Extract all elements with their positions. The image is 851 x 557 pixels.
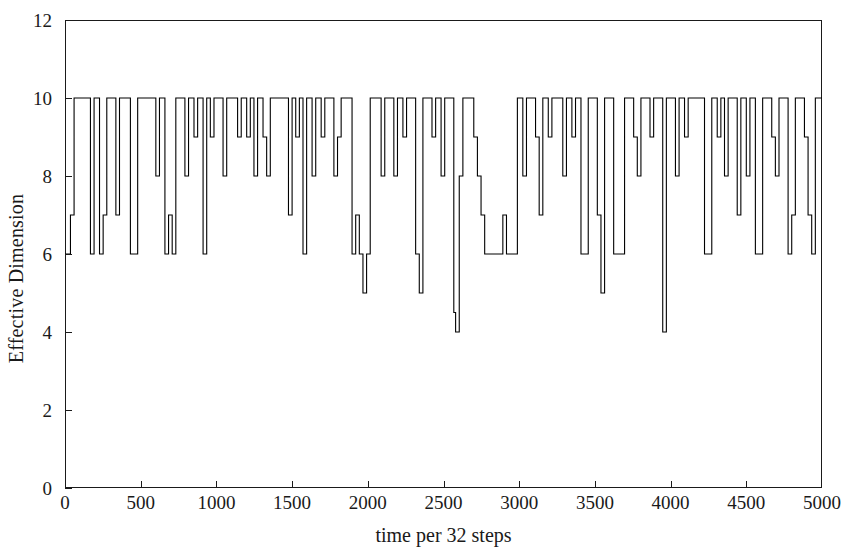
x-tick-label: 2000	[328, 493, 408, 512]
x-axis-title: time per 32 steps	[65, 524, 822, 547]
y-tick-label: 4	[0, 323, 52, 342]
y-tick-label: 12	[0, 11, 52, 30]
x-tick-mark	[292, 481, 293, 488]
x-tick-mark	[746, 481, 747, 488]
x-tick-label: 3000	[479, 493, 559, 512]
x-tick-label: 2500	[404, 493, 484, 512]
y-tick-mark	[65, 332, 72, 333]
y-tick-mark	[65, 176, 72, 177]
x-tick-label: 1000	[176, 493, 256, 512]
x-tick-label: 4500	[706, 493, 786, 512]
x-tick-mark	[444, 481, 445, 488]
x-tick-label: 4000	[631, 493, 711, 512]
y-axis-title: Effective Dimension	[0, 0, 32, 557]
y-tick-label: 2	[0, 401, 52, 420]
y-tick-label: 8	[0, 167, 52, 186]
y-tick-mark	[65, 410, 72, 411]
x-tick-label: 5000	[782, 493, 851, 512]
x-tick-mark	[141, 481, 142, 488]
y-tick-mark	[65, 98, 72, 99]
y-tick-mark	[65, 20, 72, 21]
x-tick-mark	[671, 481, 672, 488]
x-tick-label: 500	[101, 493, 181, 512]
y-tick-label: 10	[0, 89, 52, 108]
x-tick-mark	[519, 481, 520, 488]
plot-area	[65, 20, 822, 488]
y-tick-mark	[65, 254, 72, 255]
x-tick-mark	[595, 481, 596, 488]
x-tick-label: 3500	[555, 493, 635, 512]
x-tick-mark	[216, 481, 217, 488]
y-tick-label: 6	[0, 245, 52, 264]
x-tick-mark	[368, 481, 369, 488]
x-tick-label: 1500	[252, 493, 332, 512]
y-tick-mark	[65, 488, 72, 489]
chart-figure: Effective Dimension 024681012 0500100015…	[0, 0, 851, 557]
x-tick-label: 0	[25, 493, 105, 512]
